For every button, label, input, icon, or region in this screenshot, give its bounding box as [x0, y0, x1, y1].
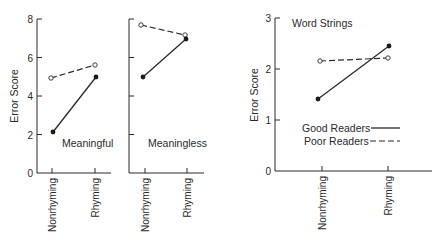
y-tick-label: 0	[265, 166, 271, 177]
y-tick-label: 8	[27, 14, 33, 25]
poor-readers-point	[49, 76, 53, 80]
x-tick-label-rhyming: Rhyming	[383, 176, 394, 215]
panel-title: Meaningful	[62, 137, 113, 149]
x-tick-label-rhyming: Rhyming	[182, 178, 193, 217]
panel-word-strings	[275, 18, 432, 171]
y-tick-label: 0	[27, 168, 33, 179]
poor-readers-point	[318, 59, 322, 63]
poor-readers-point	[183, 33, 187, 37]
x-tick-label-nonrhyming: Nonrhyming	[140, 178, 151, 232]
good-readers-line	[318, 46, 389, 99]
good-readers-point	[94, 75, 99, 80]
good-readers-point	[51, 130, 56, 135]
y-tick-label: 2	[265, 64, 271, 75]
poor-readers-point	[93, 63, 97, 67]
poor-readers-point	[139, 23, 143, 27]
good-readers-line	[143, 39, 186, 77]
poor-readers-point	[386, 56, 390, 60]
y-axis-label: Error Score	[248, 68, 260, 122]
y-tick-label: 3	[265, 13, 271, 24]
good-readers-line	[53, 77, 96, 132]
legend: Good Readers Poor Readers	[302, 122, 400, 147]
poor-readers-line	[320, 58, 388, 61]
panel-meaningless	[129, 19, 204, 173]
panel-title: Word Strings	[292, 17, 353, 29]
y-tick-label: 2	[27, 130, 33, 141]
good-readers-point	[387, 44, 392, 49]
good-readers-point	[184, 37, 189, 42]
panel-meaningful-ticklabels: 0 2 4 6 8	[27, 14, 33, 179]
x-tick-label-rhyming: Rhyming	[90, 178, 101, 217]
figure: 0 2 4 6 8 Error Score Meaningful Nonrhym…	[0, 0, 442, 245]
x-tick-label-nonrhyming: Nonrhyming	[47, 178, 58, 232]
y-tick-label: 1	[265, 115, 271, 126]
y-axis-label: Error Score	[8, 69, 20, 123]
legend-good-readers-label: Good Readers	[302, 122, 370, 134]
good-readers-point	[141, 75, 146, 80]
panel-title: Meaningless	[148, 137, 207, 149]
legend-poor-readers-label: Poor Readers	[304, 135, 369, 147]
y-tick-label: 6	[27, 53, 33, 64]
y-tick-label: 4	[27, 91, 33, 102]
panel-word-strings-ticklabels: 0 1 2 3	[265, 13, 271, 177]
poor-readers-line	[51, 65, 95, 78]
good-readers-point	[316, 97, 321, 102]
x-tick-label-nonrhyming: Nonrhyming	[317, 176, 328, 230]
poor-readers-line	[141, 25, 185, 35]
panel-meaningful	[37, 19, 111, 173]
